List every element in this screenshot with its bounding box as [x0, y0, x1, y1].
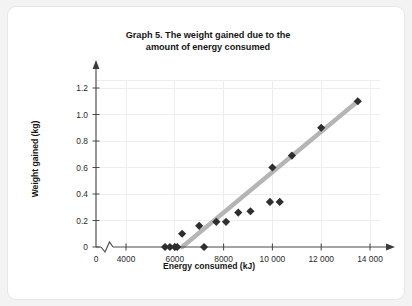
page-background: Graph 5. The weight gained due to the am…	[0, 0, 412, 306]
y-tick-label: 0.2	[76, 216, 88, 226]
trendline	[182, 101, 358, 247]
y-tick-label: 0.6	[76, 163, 88, 173]
y-axis-title: Weight gained (kg)	[30, 121, 40, 198]
data-point	[234, 208, 242, 216]
x-tick-label: 0	[94, 254, 99, 264]
y-tick-label: 1.2	[76, 83, 88, 93]
x-tick-label: 12 000	[308, 254, 334, 264]
y-tick-label: 1.0	[76, 110, 88, 120]
y-tick-label: 0.4	[76, 189, 88, 199]
data-point	[246, 207, 254, 215]
x-axis-title: Energy consumed (kJ)	[163, 261, 255, 271]
x-tick-label: 4000	[117, 254, 136, 264]
chart-card: Graph 5. The weight gained due to the am…	[7, 6, 405, 300]
y-tick-labels: 00.20.40.60.81.01.2	[76, 83, 88, 252]
axis-ticks	[93, 88, 371, 251]
y-tick-label: 0	[83, 242, 88, 252]
x-tick-label: 14 000	[357, 254, 383, 264]
data-point	[276, 198, 284, 206]
data-point	[178, 230, 186, 238]
scatter-plot: 040006000800010 00012 00014 000 00.20.40…	[8, 7, 405, 300]
gridlines	[96, 80, 380, 247]
data-point	[200, 243, 208, 251]
y-tick-label: 0.8	[76, 136, 88, 146]
x-tick-label: 10 000	[260, 254, 286, 264]
axes	[93, 60, 395, 252]
